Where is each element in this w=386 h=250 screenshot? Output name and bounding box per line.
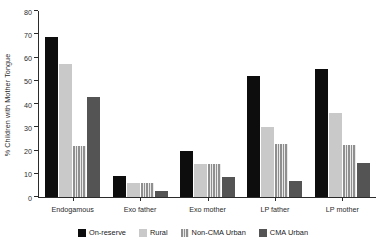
legend-item: CMA Urban [259,228,308,237]
y-axis-tick [34,10,38,11]
bar [113,176,126,197]
bar-group: Exo mother [174,11,241,197]
y-axis-tick-label: 50 [24,77,32,86]
bar-groups: EndogamousExo fatherExo motherLP fatherL… [39,11,376,197]
y-axis-tick-label: 70 [24,30,32,39]
chart-legend: On-reserveRuralNon-CMA UrbanCMA Urban [0,228,386,237]
legend-item: On-reserve [78,228,126,237]
legend-label: Non-CMA Urban [192,228,246,237]
y-axis-title-wrapper: % Children with Mother Tongue [0,10,14,200]
bar [208,164,221,197]
y-axis-tick [34,33,38,34]
y-axis-tick [34,173,38,174]
x-axis-tick [140,197,141,201]
bar [261,127,274,197]
y-axis-tick [34,80,38,81]
legend-swatch-icon [181,229,189,237]
bar [45,37,58,197]
y-axis-tick-label: 20 [24,147,32,156]
x-axis-tick-label: Endogamous [52,205,94,214]
legend-swatch-icon [78,229,86,237]
bar [155,191,168,197]
bar-group: Exo father [106,11,173,197]
bar [222,177,235,197]
y-axis-tick [34,126,38,127]
bar-chart-figure: % Children with Mother Tongue 0102030405… [0,0,386,250]
bar [315,69,328,197]
bar-group: LP mother [309,11,376,197]
bar-group: Endogamous [39,11,106,197]
legend-item: Non-CMA Urban [181,228,246,237]
x-axis-tick [342,197,343,201]
bar [73,146,86,197]
y-axis-tick [34,196,38,197]
y-axis-tick-label: 10 [24,170,32,179]
legend-label: CMA Urban [270,228,308,237]
y-axis-tick-label: 40 [24,100,32,109]
legend-item: Rural [139,228,168,237]
x-axis-tick-label: LP mother [326,205,359,214]
y-axis-tick-label: 80 [24,7,32,16]
y-axis-tick [34,103,38,104]
x-axis-tick [208,197,209,201]
bar [180,151,193,198]
x-axis-tick-label: LP father [260,205,289,214]
bar [127,183,140,197]
legend-label: Rural [150,228,168,237]
x-axis-tick [73,197,74,201]
bar [59,64,72,197]
x-axis-tick [275,197,276,201]
legend-swatch-icon [259,229,267,237]
legend-label: On-reserve [89,228,126,237]
x-axis-tick-label: Exo mother [189,205,226,214]
y-axis-tick-label: 30 [24,123,32,132]
bar-group: LP father [241,11,308,197]
y-axis-tick [34,150,38,151]
y-axis-tick-label: 60 [24,54,32,63]
x-axis-tick-label: Exo father [124,205,157,214]
bar [141,183,154,197]
y-axis-tick-label: 0 [28,193,32,202]
bar [87,97,100,197]
bar [357,163,370,197]
plot-area: 01020304050607080 EndogamousExo fatherEx… [38,11,376,198]
bar [247,76,260,197]
y-axis-tick [34,57,38,58]
bar [275,144,288,197]
bar [289,181,302,197]
bar [343,145,356,197]
bar [329,113,342,197]
bar [194,164,207,197]
legend-swatch-icon [139,229,147,237]
y-axis-title: % Children with Mother Tongue [0,20,14,190]
